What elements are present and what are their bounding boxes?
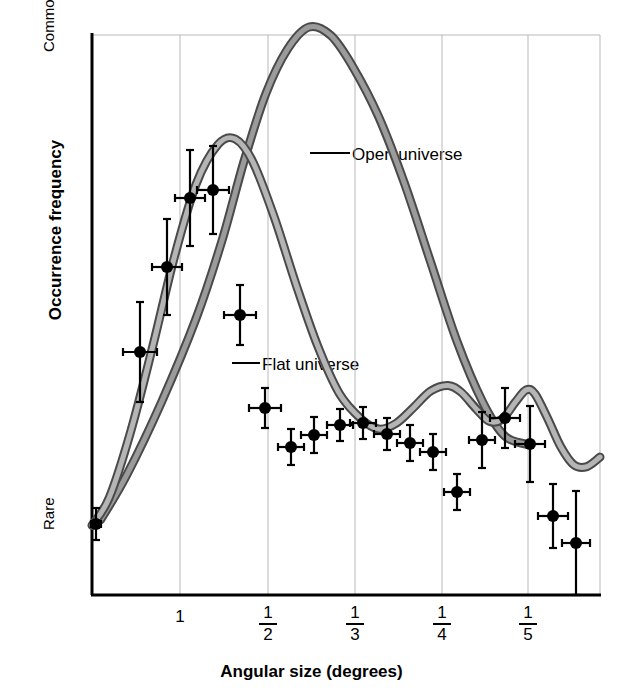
data-point-marker: [499, 412, 511, 424]
curve-fill-2: [92, 138, 600, 526]
data-point-marker: [285, 441, 297, 453]
data-point-marker: [476, 434, 488, 446]
data-markers: [90, 184, 582, 549]
data-point-marker: [308, 429, 320, 441]
error-bars: [91, 146, 590, 595]
data-point-marker: [427, 446, 439, 458]
data-point-marker: [404, 437, 416, 449]
data-point-marker: [134, 346, 146, 358]
data-point-marker: [184, 192, 196, 204]
data-point-marker: [259, 402, 271, 414]
plot-area: [0, 0, 623, 700]
data-point-marker: [161, 261, 173, 273]
data-point-marker: [234, 309, 246, 321]
data-point-marker: [357, 417, 369, 429]
data-point-marker: [334, 419, 346, 431]
data-point-marker: [524, 438, 536, 450]
data-point-marker: [90, 518, 102, 530]
model-curves: [92, 26, 600, 525]
data-point-marker: [207, 184, 219, 196]
data-point-marker: [547, 510, 559, 522]
data-point-marker: [381, 428, 393, 440]
data-point-marker: [451, 486, 463, 498]
data-point-marker: [570, 537, 582, 549]
curve-outline-2: [92, 138, 600, 526]
chart-figure: Occurrence frequency Common Rare 1 1 2 1…: [0, 0, 623, 700]
